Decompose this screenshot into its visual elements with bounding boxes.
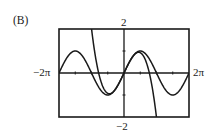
plot-area xyxy=(0,0,214,134)
